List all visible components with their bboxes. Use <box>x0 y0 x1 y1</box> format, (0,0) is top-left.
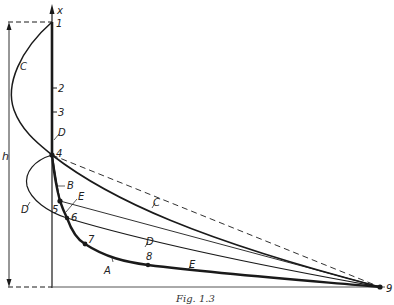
arrow-up-icon <box>7 22 12 30</box>
curve-d-loop <box>27 155 67 218</box>
height-dimension <box>7 22 53 287</box>
point-8-marker <box>146 263 150 267</box>
curve-a-label: A <box>103 265 111 276</box>
curve-d-loop-label: D <box>21 204 29 215</box>
point-4-marker <box>49 152 54 157</box>
point-6-label: 6 <box>71 212 77 223</box>
point-9-marker <box>377 284 382 289</box>
axis-label-x: x <box>56 5 63 16</box>
trajectory-diagram: x h 1 2 3 4 5 6 7 8 9 C D B E D C D A E … <box>0 0 394 305</box>
arrow-down-icon <box>7 279 12 287</box>
point-5-label: 5 <box>52 204 58 215</box>
curve-d-upper-label: D <box>58 127 66 138</box>
curve-e-upper-label: E <box>78 191 85 202</box>
curve-c-lower-label: C <box>153 197 160 208</box>
point-2-label: 2 <box>58 83 64 94</box>
point-5-marker <box>57 198 62 203</box>
figure-caption: Fig. 1.3 <box>175 293 215 304</box>
point-6-marker <box>65 216 69 220</box>
curve-e-lower-label: E <box>189 259 196 270</box>
point-3-label: 3 <box>58 107 64 118</box>
curve-b-label: B <box>67 180 74 191</box>
curve-d-lower <box>67 218 380 287</box>
axis-arrow-icon <box>50 4 55 14</box>
point-9-label: 9 <box>386 283 392 294</box>
curve-d-lower-label: D <box>146 236 154 247</box>
point-7-marker <box>83 242 88 247</box>
curve-c-upper <box>11 22 52 155</box>
height-label-h: h <box>2 150 9 163</box>
point-4-label: 4 <box>56 148 62 159</box>
curve-c-upper-label: C <box>20 61 27 72</box>
point-8-label: 8 <box>146 251 152 262</box>
chord-4-9-dashed <box>52 155 380 287</box>
point-1-label: 1 <box>56 18 62 29</box>
point-7-label: 7 <box>88 234 95 245</box>
